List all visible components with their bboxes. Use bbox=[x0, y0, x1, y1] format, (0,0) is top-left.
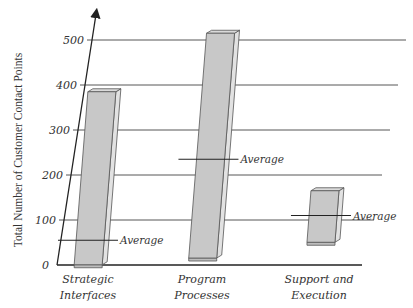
y-tick-label: 300 bbox=[49, 124, 70, 137]
average-label: Average bbox=[119, 234, 164, 246]
bar-top bbox=[207, 30, 240, 33]
x-category-label: Execution bbox=[290, 289, 347, 302]
x-category-label: Interfaces bbox=[59, 289, 117, 302]
average-label: Average bbox=[239, 153, 284, 165]
x-category-label: Support and bbox=[284, 273, 353, 286]
x-category-label: Strategic bbox=[62, 273, 113, 286]
range-bar-chart: 0100200300400500 AverageAverageAverage S… bbox=[0, 0, 413, 308]
y-tick-label: 0 bbox=[42, 259, 49, 272]
y-tick-label: 400 bbox=[55, 79, 77, 92]
bar-top bbox=[311, 188, 344, 191]
bar-bottom bbox=[307, 242, 335, 245]
x-category-label: Processes bbox=[173, 289, 230, 302]
bar-bottom bbox=[74, 265, 102, 268]
y-tick-label: 200 bbox=[41, 169, 63, 182]
x-category-label: Program bbox=[177, 273, 227, 286]
y-tick-label: 100 bbox=[35, 214, 56, 227]
bar-bottom bbox=[189, 258, 217, 261]
y-axis-title: Total Number of Customer Contact Points bbox=[12, 52, 24, 247]
y-tick-label: 500 bbox=[63, 34, 84, 47]
bar-top bbox=[88, 89, 121, 92]
bar-face bbox=[307, 191, 339, 243]
average-label: Average bbox=[352, 210, 397, 222]
bars bbox=[74, 30, 344, 268]
x-category-labels: StrategicInterfacesProgramProcessesSuppo… bbox=[59, 273, 354, 302]
